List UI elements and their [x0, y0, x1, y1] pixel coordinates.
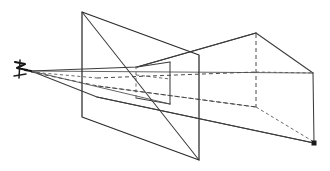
- vanishing-point-dot: [312, 141, 317, 146]
- eye-icon-stroke-point: [25, 70, 31, 71]
- box-right-vertical-edge: [313, 73, 314, 143]
- projected-image-quad-group: [136, 62, 170, 104]
- projection-ray-upper: [31, 33, 256, 71]
- diagram-canvas: [0, 0, 330, 171]
- projection-ray-lower: [31, 71, 314, 143]
- eye-icon-stroke-upper: [15, 62, 27, 70]
- perspective-diagram-figure: [0, 0, 330, 171]
- eye-viewpoint-icon: [14, 60, 31, 78]
- eye-icon-stroke-tail: [14, 74, 26, 76]
- box-top-far-right-edge: [256, 33, 313, 73]
- box-floor-hidden-edge-left: [97, 72, 256, 78]
